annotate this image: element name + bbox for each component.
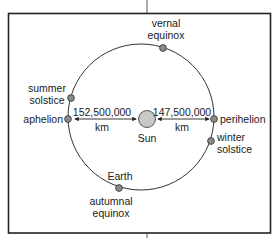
sun-label: Sun bbox=[138, 132, 157, 144]
earth-dot-icon bbox=[116, 185, 123, 192]
perihelion-dot-icon bbox=[211, 116, 218, 123]
aphelion-distance-unit: km bbox=[95, 121, 109, 133]
perihelion-distance-unit: km bbox=[175, 121, 189, 133]
autumnal-equinox-label-line2: equinox bbox=[93, 207, 131, 219]
aphelion-distance-value: 152,500,000 bbox=[73, 106, 132, 118]
summer-solstice-dot-icon bbox=[68, 95, 75, 102]
winter-solstice-label-line2: solstice bbox=[217, 143, 252, 155]
orbit-diagram: Sun 152,500,000 km 147,500,000 km vernal… bbox=[0, 0, 278, 238]
perihelion-label: perihelion bbox=[220, 113, 266, 125]
autumnal-equinox-label-line1: autumnal bbox=[89, 195, 132, 207]
vernal-equinox-label-line1: vernal bbox=[152, 17, 181, 29]
perihelion-distance-value: 147,500,000 bbox=[153, 106, 212, 118]
aphelion-dot-icon bbox=[65, 116, 72, 123]
winter-solstice-dot-icon bbox=[208, 138, 215, 145]
vernal-equinox-dot-icon bbox=[160, 45, 167, 52]
summer-solstice-label-line1: summer bbox=[28, 82, 66, 94]
summer-solstice-label-line2: solstice bbox=[29, 94, 64, 106]
vernal-equinox-label-line2: equinox bbox=[148, 29, 186, 41]
aphelion-label: aphelion bbox=[23, 113, 63, 125]
winter-solstice-label-line1: winter bbox=[216, 131, 246, 143]
earth-label: Earth bbox=[107, 170, 132, 182]
